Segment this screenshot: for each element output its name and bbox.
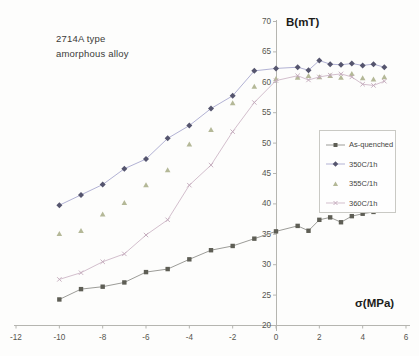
y-tick-label: 40: [262, 199, 272, 208]
x-tick-label: -4: [186, 333, 194, 342]
legend: As-quenched 350C/1h 355C/1h 360C/1h: [319, 130, 396, 213]
y-tick-label: 30: [262, 260, 272, 269]
legend-label: 355C/1h: [349, 179, 377, 188]
triangle-marker-icon: [325, 179, 346, 189]
square-marker-icon: [325, 140, 346, 150]
legend-label: 350C/1h: [349, 160, 377, 169]
y-tick-label: 20: [262, 321, 272, 330]
x-tick-label: -2: [229, 333, 237, 342]
legend-item-as-quenched: As-quenched: [325, 135, 395, 155]
annotation-line1: 2714A type: [56, 31, 129, 46]
diamond-marker-icon: [325, 159, 346, 169]
annotation-line2: amorphous alloy: [56, 46, 129, 61]
y-tick-label: 50: [262, 139, 272, 148]
x-tick-label: 2: [317, 333, 322, 342]
legend-item-355c: 355C/1h: [325, 174, 395, 194]
y-tick-label: 60: [262, 78, 272, 87]
y-tick-label: 70: [262, 17, 272, 26]
x-axis-title: σ(MPa): [355, 297, 394, 309]
y-tick-label: 25: [262, 291, 272, 300]
y-tick-label: 45: [262, 169, 272, 178]
x-tick-label: 4: [360, 333, 365, 342]
x-tick-label: -12: [10, 333, 22, 342]
legend-label: As-quenched: [349, 140, 393, 149]
x-tick-label: 0: [274, 333, 279, 342]
x-tick-label: 6: [404, 333, 409, 342]
x-tick-label: -8: [99, 333, 107, 342]
legend-label: 360C/1h: [349, 199, 377, 208]
chart-annotation: 2714A type amorphous alloy: [56, 31, 129, 61]
y-axis-title: B(mT): [286, 16, 319, 28]
series-as-quenched: [57, 207, 386, 302]
legend-item-350c: 350C/1h: [325, 155, 395, 175]
legend-item-360c: 360C/1h: [325, 194, 395, 214]
x-marker-icon: [325, 198, 346, 208]
chart: 2025303540455055606570-12-10-8-6-4-20246…: [0, 0, 419, 356]
x-tick-label: -6: [142, 333, 150, 342]
y-tick-label: 55: [262, 108, 272, 117]
y-tick-label: 65: [262, 47, 272, 56]
x-tick-label: -10: [53, 333, 65, 342]
